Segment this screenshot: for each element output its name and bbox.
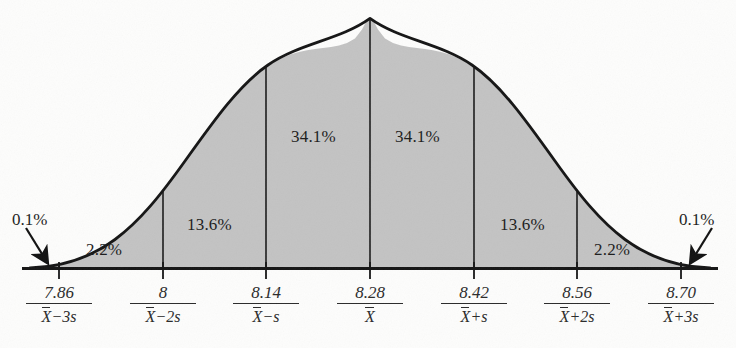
axis-label-expression: X+3s bbox=[629, 304, 733, 327]
tail-left-arrow bbox=[26, 228, 47, 262]
x-bar-symbol: X bbox=[664, 306, 674, 327]
axis-label-expression: X−3s bbox=[7, 304, 111, 327]
axis-label-minus-1s: 8.14 X−s bbox=[214, 283, 318, 327]
region-label-34-1-right: 34.1% bbox=[395, 127, 440, 147]
axis-label-value: 8.14 bbox=[214, 283, 318, 303]
axis-label-expression: X+2s bbox=[525, 304, 629, 327]
x-bar-symbol: X bbox=[42, 306, 52, 327]
axis-label-expression: X+s bbox=[422, 304, 526, 327]
axis-label-value: 7.86 bbox=[7, 283, 111, 303]
axis-label-minus-2s: 8 X−2s bbox=[111, 283, 215, 327]
deviation-term: −2s bbox=[155, 308, 180, 325]
x-bar-symbol: X bbox=[560, 306, 570, 327]
deviation-term: +s bbox=[470, 308, 487, 325]
region-label-13-6-left: 13.6% bbox=[187, 215, 232, 235]
axis-label-plus-3s: 8.70 X+3s bbox=[629, 283, 733, 327]
region-label-2-2-right: 2.2% bbox=[594, 240, 630, 260]
axis-label-value: 8 bbox=[111, 283, 215, 303]
axis-label-mean: 8.28 X bbox=[318, 283, 422, 327]
axis-label-expression: X−s bbox=[214, 304, 318, 327]
tail-label-right: 0.1% bbox=[679, 210, 714, 230]
region-label-2-2-left: 2.2% bbox=[86, 240, 122, 260]
region-label-34-1-left: 34.1% bbox=[291, 127, 336, 147]
axis-label-expression: X−2s bbox=[111, 304, 215, 327]
deviation-term: −s bbox=[262, 308, 279, 325]
deviation-term: +2s bbox=[569, 308, 594, 325]
region-label-13-6-right: 13.6% bbox=[500, 215, 545, 235]
axis-label-value: 8.28 bbox=[318, 283, 422, 303]
axis-label-plus-2s: 8.56 X+2s bbox=[525, 283, 629, 327]
axis-label-minus-3s: 7.86 X−3s bbox=[7, 283, 111, 327]
tail-right-arrow bbox=[691, 228, 712, 262]
tail-label-left: 0.1% bbox=[12, 210, 47, 230]
axis-label-expression: X bbox=[318, 304, 422, 327]
deviation-term: +3s bbox=[673, 308, 698, 325]
x-bar-symbol: X bbox=[461, 306, 471, 327]
deviation-term: −3s bbox=[51, 308, 76, 325]
axis-label-value: 8.56 bbox=[525, 283, 629, 303]
x-bar-symbol: X bbox=[253, 306, 263, 327]
x-bar-symbol: X bbox=[146, 306, 156, 327]
axis-label-value: 8.42 bbox=[422, 283, 526, 303]
x-bar-symbol: X bbox=[365, 306, 375, 327]
axis-label-value: 8.70 bbox=[629, 283, 733, 303]
axis-label-plus-1s: 8.42 X+s bbox=[422, 283, 526, 327]
